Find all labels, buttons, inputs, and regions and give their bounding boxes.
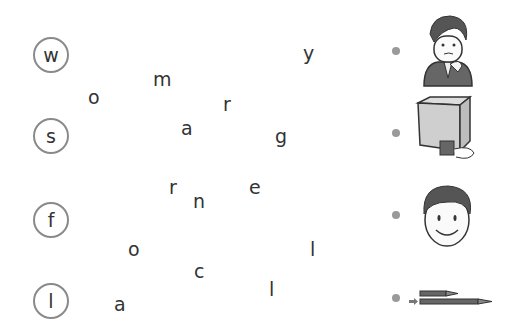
start-letter: f xyxy=(48,209,55,231)
start-letter: w xyxy=(43,44,59,66)
start-letter: s xyxy=(46,125,56,147)
scattered-letter: l xyxy=(310,240,315,259)
scattered-letter: o xyxy=(128,240,140,259)
scattered-letter: a xyxy=(114,295,126,314)
start-letter: l xyxy=(48,290,53,312)
match-dot[interactable] xyxy=(392,211,400,219)
scattered-letter: m xyxy=(153,70,172,89)
scattered-letter: g xyxy=(275,127,287,146)
boy-face-picture xyxy=(418,182,476,250)
letter-circle-l: l xyxy=(33,283,69,319)
match-dot[interactable] xyxy=(392,47,400,55)
scattered-letter: l xyxy=(269,280,274,299)
scattered-letter: r xyxy=(223,95,231,114)
letter-circle-w: w xyxy=(33,37,69,73)
match-dot[interactable] xyxy=(392,129,400,137)
match-dot[interactable] xyxy=(392,294,400,302)
scattered-letter: r xyxy=(169,178,177,197)
scattered-letter: c xyxy=(194,262,204,281)
scattered-letter: e xyxy=(249,178,261,197)
worried-man-picture xyxy=(420,12,476,87)
scattered-letter: n xyxy=(193,192,205,211)
letter-circle-s: s xyxy=(33,118,69,154)
scattered-letter: y xyxy=(303,44,314,63)
pencils-picture xyxy=(408,288,494,308)
boxes-picture xyxy=(414,95,480,167)
letter-circle-f: f xyxy=(33,202,69,238)
scattered-letter: o xyxy=(88,88,100,107)
scattered-letter: a xyxy=(181,119,193,138)
